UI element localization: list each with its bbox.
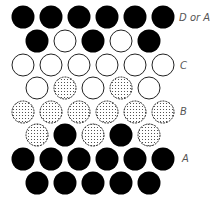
black-atom-circle: [54, 124, 77, 147]
black-atom-circle: [96, 6, 119, 29]
white-atom-circle: [54, 30, 76, 52]
black-atom-circle: [96, 148, 119, 171]
white-atom-circle: [26, 77, 48, 99]
dotted-atom-circle: [82, 124, 104, 146]
black-atom-circle: [40, 148, 63, 171]
black-atom-circle: [12, 6, 35, 29]
label-d-or-a: D or A: [179, 12, 210, 23]
white-atom-circle: [82, 77, 104, 99]
label-b: B: [180, 106, 187, 117]
dotted-atom-circle: [138, 124, 160, 146]
white-atom-circle: [68, 54, 90, 76]
dotted-atom-circle: [26, 124, 48, 146]
black-atom-circle: [124, 148, 147, 171]
black-atom-circle: [68, 148, 91, 171]
black-atom-circle: [82, 172, 105, 195]
black-atom-circle: [124, 6, 147, 29]
black-atom-circle: [138, 172, 161, 195]
white-atom-circle: [110, 30, 132, 52]
dotted-atom-circle: [68, 101, 90, 123]
black-atom-circle: [110, 124, 133, 147]
label-a: A: [182, 153, 189, 164]
white-atom-circle: [124, 54, 146, 76]
atomic-layer-diagram: D or A C B A: [0, 0, 223, 205]
label-c: C: [180, 60, 187, 71]
white-atom-circle: [96, 54, 118, 76]
white-atom-circle: [12, 54, 34, 76]
black-atom-circle: [152, 148, 175, 171]
black-atom-circle: [12, 148, 35, 171]
black-atom-circle: [40, 6, 63, 29]
black-atom-circle: [152, 6, 175, 29]
black-atom-circle: [68, 6, 91, 29]
black-atom-circle: [138, 30, 161, 53]
white-atom-circle: [40, 54, 62, 76]
black-atom-circle: [26, 30, 49, 53]
black-atom-circle: [110, 172, 133, 195]
dotted-atom-circle: [124, 101, 146, 123]
black-atom-circle: [26, 172, 49, 195]
dotted-atom-circle: [54, 77, 76, 99]
dotted-atom-circle: [110, 77, 132, 99]
dotted-atom-circle: [12, 101, 34, 123]
black-atom-circle: [54, 172, 77, 195]
white-atom-circle: [138, 77, 160, 99]
black-atom-circle: [82, 30, 105, 53]
white-atom-circle: [152, 54, 174, 76]
dotted-atom-circle: [40, 101, 62, 123]
dotted-atom-circle: [96, 101, 118, 123]
dotted-atom-circle: [152, 101, 174, 123]
layer-circles: [0, 0, 223, 205]
